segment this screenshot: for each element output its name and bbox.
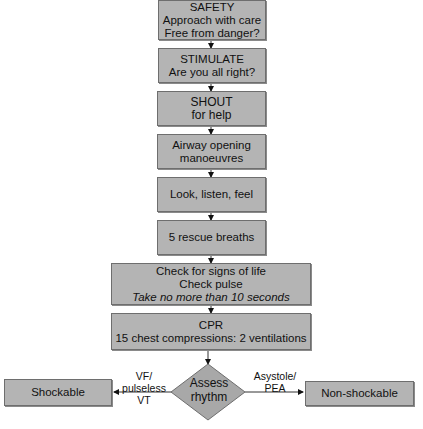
outcome-text: Non-shockable	[321, 387, 398, 400]
step-text: for help	[191, 109, 231, 122]
step-shout: SHOUT for help	[157, 91, 266, 126]
step-note: Take no more than 10 seconds	[132, 291, 290, 304]
step-text: manoeuvres	[180, 152, 243, 165]
step-text: Are you all right?	[169, 66, 255, 79]
step-title: STIMULATE	[180, 53, 244, 66]
step-safety: SAFETY Approach with care Free from dang…	[158, 0, 266, 40]
decision-text: Assess	[172, 376, 246, 390]
decision-text: rhythm	[172, 390, 246, 404]
step-title: SHOUT	[191, 96, 233, 109]
branch-text: pulseless VT	[116, 382, 172, 406]
branch-label-right: Asystole/ PEA	[250, 370, 300, 394]
step-check-signs: Check for signs of life Check pulse Take…	[111, 263, 311, 305]
outcome-non-shockable: Non-shockable	[305, 381, 414, 406]
step-text: Free from danger?	[164, 27, 259, 40]
branch-text: VF/	[116, 370, 172, 382]
branch-label-left: VF/ pulseless VT	[116, 370, 172, 406]
step-text: 15 chest compressions: 2 ventilations	[115, 332, 306, 345]
step-look-listen-feel: Look, listen, feel	[157, 177, 266, 212]
step-text: Approach with care	[163, 14, 261, 27]
step-text: Check for signs of life	[156, 265, 266, 278]
outcome-text: Shockable	[31, 386, 85, 399]
step-text: Look, listen, feel	[170, 188, 253, 201]
outcome-shockable: Shockable	[4, 379, 112, 406]
step-text: 5 rescue breaths	[169, 231, 255, 244]
step-title: SAFETY	[190, 1, 235, 14]
step-title: CPR	[199, 319, 223, 332]
step-rescue-breaths: 5 rescue breaths	[157, 220, 266, 255]
step-text: Check pulse	[179, 278, 242, 291]
decision-label: Assess rhythm	[172, 376, 246, 404]
step-cpr: CPR 15 chest compressions: 2 ventilation…	[111, 313, 311, 350]
branch-text: Asystole/	[250, 370, 300, 382]
step-text: Airway opening	[172, 139, 251, 152]
step-airway: Airway opening manoeuvres	[157, 134, 266, 169]
branch-text: PEA	[250, 382, 300, 394]
step-stimulate: STIMULATE Are you all right?	[158, 48, 266, 83]
